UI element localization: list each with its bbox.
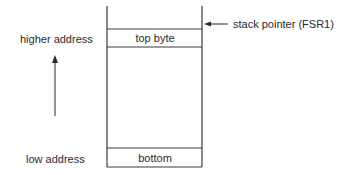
top-byte-cell: top byte bbox=[108, 32, 202, 44]
arrow-up-icon bbox=[52, 55, 58, 116]
higher-address-label: higher address bbox=[20, 33, 93, 45]
low-address-label: low address bbox=[26, 153, 85, 165]
bottom-cell: bottom bbox=[108, 152, 202, 164]
stack-pointer-label: stack pointer (FSR1) bbox=[233, 18, 334, 30]
arrow-left-icon bbox=[204, 22, 228, 27]
